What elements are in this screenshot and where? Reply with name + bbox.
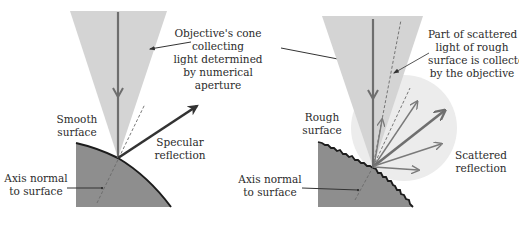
objective-cone-label-line: light determined — [170, 53, 266, 66]
collected-scatter-label-line: by the objective — [428, 67, 516, 80]
specular-reflection-label-line: reflection — [152, 149, 208, 162]
rough-surface-label-line: Rough — [300, 111, 344, 124]
collected-scatter-label-line: surface is collected — [428, 54, 516, 67]
collected-scatter-label-line: light of rough — [428, 41, 516, 54]
normal-axis-label-line: to surface — [4, 185, 68, 198]
normal-axis-label-right: Axis normal to surface — [238, 173, 302, 199]
normal-axis-label-line: Axis normal — [238, 173, 302, 186]
smooth-surface-label-line: Smooth — [52, 113, 102, 126]
objective-cone-label-line: Objective's cone — [170, 27, 266, 40]
normal-axis-label-line: to surface — [238, 186, 302, 199]
scattered-reflection-label: Scattered reflection — [449, 149, 513, 175]
smooth-surface-label-line: surface — [52, 126, 102, 139]
specular-reflection-label: Specular reflection — [152, 136, 208, 162]
collected-scatter-label: Part of scattered light of rough surface… — [428, 28, 516, 80]
objective-cone-label-line: by numerical — [170, 66, 266, 79]
rough-surface-label-line: surface — [300, 124, 344, 137]
normal-axis-label-left: Axis normal to surface — [4, 172, 68, 198]
scattered-reflection-label-line: reflection — [449, 162, 513, 175]
smooth-surface-label: Smooth surface — [52, 113, 102, 139]
collected-scatter-label-line: Part of scattered — [428, 28, 516, 41]
objective-cone-label: Objective's cone collecting light determ… — [170, 27, 266, 92]
objective-cone-label-line: aperture — [170, 79, 266, 92]
normal-axis-label-line: Axis normal — [4, 172, 68, 185]
objective-cone-label-line: collecting — [170, 40, 266, 53]
rough-surface-label: Rough surface — [300, 111, 344, 137]
scattered-reflection-label-line: Scattered — [449, 149, 513, 162]
specular-reflection-label-line: Specular — [152, 136, 208, 149]
